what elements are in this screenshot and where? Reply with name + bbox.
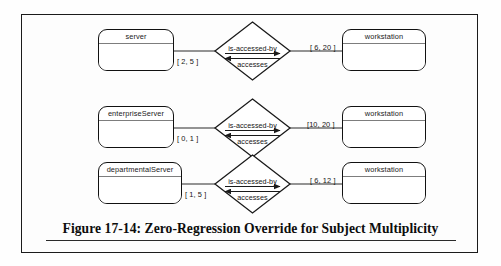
entity-box-enterprise-server[interactable]: enterpriseServer [98, 106, 174, 148]
entity-name-enterprise-server: enterpriseServer [99, 107, 173, 121]
entity-name-workstation-3: workstation [343, 163, 425, 177]
entity-attributes-departmental-server [99, 177, 181, 204]
subject-multiplicity-2: [ 0, 1 ] [177, 134, 198, 143]
caption-underline [46, 240, 456, 241]
object-multiplicity-1: [ 6, 20 ] [310, 43, 336, 52]
entity-box-workstation-1[interactable]: workstation [342, 29, 426, 71]
page-canvas: server [ 2, 5 ] is-accessed-by accesses … [0, 0, 501, 266]
reverse-role-label-3: accesses [212, 193, 293, 202]
object-multiplicity-3: [ 6, 12 ] [310, 176, 336, 185]
entity-attributes-server [99, 44, 173, 71]
entity-attributes-workstation-1 [343, 44, 425, 71]
figure-caption: Figure 17-14: Zero-Regression Override f… [22, 221, 479, 237]
subject-multiplicity-1: [ 2, 5 ] [177, 57, 198, 66]
object-multiplicity-2: [10, 20 ] [307, 120, 335, 129]
entity-name-server: server [99, 30, 173, 44]
entity-attributes-workstation-2 [343, 121, 425, 148]
entity-name-workstation-1: workstation [343, 30, 425, 44]
entity-box-departmental-server[interactable]: departmentalServer [98, 162, 182, 204]
forward-role-label-1: is-accessed-by [212, 44, 293, 53]
entity-name-workstation-2: workstation [343, 107, 425, 121]
entity-relationship-diagram: server [ 2, 5 ] is-accessed-by accesses … [22, 15, 479, 254]
figure-frame: server [ 2, 5 ] is-accessed-by accesses … [21, 14, 478, 253]
forward-role-label-2: is-accessed-by [212, 121, 293, 130]
entity-name-departmental-server: departmentalServer [99, 163, 181, 177]
forward-role-label-3: is-accessed-by [212, 177, 293, 186]
subject-multiplicity-3: [ 1, 5 ] [185, 190, 206, 199]
entity-attributes-enterprise-server [99, 121, 173, 148]
entity-box-server[interactable]: server [98, 29, 174, 71]
entity-attributes-workstation-3 [343, 177, 425, 204]
entity-box-workstation-3[interactable]: workstation [342, 162, 426, 204]
reverse-role-label-1: accesses [212, 60, 293, 69]
entity-box-workstation-2[interactable]: workstation [342, 106, 426, 148]
reverse-role-label-2: accesses [212, 137, 293, 146]
